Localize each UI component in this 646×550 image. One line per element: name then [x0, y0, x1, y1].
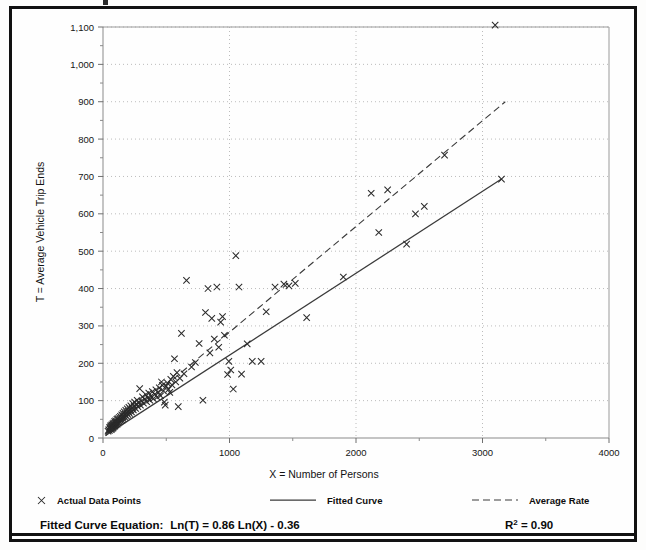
y-tick-label: 700 [78, 171, 94, 182]
y-tick-label: 900 [78, 96, 94, 107]
y-tick-label: 300 [78, 320, 94, 331]
data-point-marker [258, 358, 264, 364]
data-point-marker [221, 332, 227, 338]
data-point-marker [238, 371, 244, 377]
x-marker-icon [38, 497, 45, 504]
fitted-curve-line-group [106, 179, 502, 435]
data-point-marker [244, 341, 250, 347]
data-point-marker [421, 203, 427, 209]
data-point-marker [136, 385, 142, 391]
data-point-marker [226, 358, 232, 364]
data-point-marker [183, 277, 189, 283]
data-point-marker [249, 358, 255, 364]
data-point-marker [175, 403, 181, 409]
legend-item-average-rate[interactable]: Average Rate [472, 495, 589, 506]
data-point-marker [214, 284, 220, 290]
data-point-marker [224, 371, 230, 377]
chart-footer: Fitted Curve Equation:Ln(T) = 0.86 Ln(X)… [40, 518, 553, 531]
x-axis-title: X = Number of Persons [269, 468, 378, 480]
axes-frame-group [103, 27, 609, 438]
legend-item-fitted-curve[interactable]: Fitted Curve [270, 495, 382, 506]
data-point-marker [233, 252, 239, 258]
y-tick-label: 100 [78, 395, 94, 406]
data-point-marker [202, 309, 208, 315]
fitted-curve-line [106, 179, 502, 435]
plot-container: 01002003004005006007008009001,0001,100 0… [0, 0, 646, 550]
data-point-marker [376, 229, 382, 235]
footer-divider [12, 533, 634, 536]
data-point-marker [340, 274, 346, 280]
data-point-marker [200, 397, 206, 403]
legend-label-fitted-curve: Fitted Curve [327, 495, 382, 506]
y-axis-ticks-group: 01002003004005006007008009001,0001,100 [70, 22, 103, 444]
x-axis-ticks-group: 01000200030004000 [100, 438, 619, 458]
data-point-marker [207, 350, 213, 356]
scatter-chart: 01002003004005006007008009001,0001,100 0… [0, 0, 646, 550]
y-tick-label: 600 [78, 208, 94, 219]
data-point-marker [272, 284, 278, 290]
legend-item-actual-data-points[interactable]: Actual Data Points [38, 495, 141, 506]
data-point-marker [230, 386, 236, 392]
data-point-marker [368, 190, 374, 196]
data-point-marker [219, 313, 225, 319]
y-axis-title: T = Average Vehicle Trip Ends [34, 162, 46, 303]
x-tick-label: 3000 [472, 447, 493, 458]
data-point-marker [217, 319, 223, 325]
legend-label-actual-data-points: Actual Data Points [57, 495, 141, 506]
x-tick-label: 0 [100, 447, 105, 458]
data-point-marker [412, 211, 418, 217]
data-point-marker [403, 241, 409, 247]
chart-figure: 01002003004005006007008009001,0001,100 0… [0, 0, 646, 550]
data-point-marker [286, 283, 292, 289]
y-tick-label: 800 [78, 134, 94, 145]
chart-legend: Actual Data Points Fitted Curve Average … [38, 495, 589, 506]
data-point-marker [171, 356, 177, 362]
data-point-marker [228, 367, 234, 373]
y-tick-label: 500 [78, 246, 94, 257]
x-tick-label: 4000 [598, 447, 619, 458]
gridlines-group [103, 27, 609, 438]
y-tick-label: 1,000 [70, 59, 94, 70]
data-point-marker [209, 315, 215, 321]
data-point-marker [263, 309, 269, 315]
y-tick-label: 0 [89, 433, 94, 444]
data-point-marker [178, 330, 184, 336]
data-point-marker [205, 285, 211, 291]
data-point-marker [292, 280, 298, 286]
data-point-marker [196, 340, 202, 346]
equation-label: Fitted Curve Equation:Ln(T) = 0.86 Ln(X)… [40, 519, 300, 531]
data-point-marker [236, 284, 242, 290]
y-tick-label: 200 [78, 358, 94, 369]
data-point-marker [498, 176, 504, 182]
data-point-marker [181, 371, 187, 377]
x-tick-label: 2000 [345, 447, 366, 458]
x-tick-label: 1000 [219, 447, 240, 458]
data-point-marker [384, 187, 390, 193]
r-squared-value: R2 = 0.90 [505, 518, 553, 531]
data-point-marker [211, 336, 217, 342]
data-point-marker [216, 344, 222, 350]
legend-label-average-rate: Average Rate [529, 495, 589, 506]
data-point-marker [303, 314, 309, 320]
y-tick-label: 400 [78, 283, 94, 294]
data-points-group [105, 22, 505, 435]
y-tick-label: 1,100 [70, 22, 94, 33]
